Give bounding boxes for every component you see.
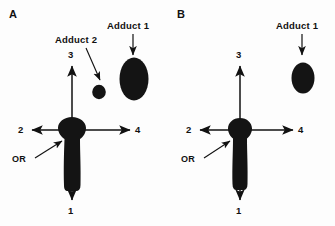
panel-a-axis-label-1: 1 — [68, 205, 73, 216]
panel-b-or-pointer — [204, 141, 230, 158]
panel-a-adduct-2-spot — [92, 85, 106, 99]
panel-b-adduct-1-spot — [292, 63, 315, 94]
panel-a-axis-label-4: 4 — [135, 124, 140, 135]
panel-b-axis-label-2: 2 — [186, 124, 191, 135]
panel-a-adduct-1-spot — [120, 58, 149, 101]
panel-a-or-pointer — [35, 141, 62, 158]
autoradiogram-figure: A — [0, 0, 335, 226]
panel-b: B 3 1 2 4 OR Ad — [167, 0, 335, 226]
panel-b-or-label: OR — [181, 154, 195, 164]
panel-b-axis-label-1: 1 — [236, 205, 241, 216]
panel-a-adduct-2-pointer — [86, 48, 100, 80]
panel-a-adduct-1-label: Adduct 1 — [107, 20, 149, 31]
panel-b-axis-label-3: 3 — [236, 49, 241, 60]
panel-b-adduct-1-label: Adduct 1 — [276, 20, 318, 31]
panel-a: A — [0, 0, 168, 226]
panel-a-axis-label-2: 2 — [18, 124, 23, 135]
panel-a-axis-label-3: 3 — [68, 49, 73, 60]
panel-b-origin-spot — [228, 118, 252, 190]
panel-a-adduct-2-label: Adduct 2 — [55, 34, 97, 45]
panel-b-axis-label-4: 4 — [298, 124, 303, 135]
panel-a-origin-spot — [58, 117, 86, 191]
panel-b-graphics — [167, 0, 335, 226]
panel-a-or-label: OR — [12, 154, 26, 164]
